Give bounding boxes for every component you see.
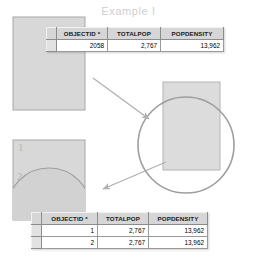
table-header-row: OBJECTID * TOTALPOP POPDENSITY <box>32 213 208 225</box>
input-feature-attribute-table[interactable]: OBJECTID * TOTALPOP POPDENSITY 2058 2,76… <box>46 27 224 52</box>
polygon-part-label-1: 1 <box>18 141 24 153</box>
table-row[interactable]: 2058 2,767 13,962 <box>47 40 224 52</box>
cell-popdensity[interactable]: 13,962 <box>161 40 224 52</box>
table-row[interactable]: 2 2,767 13,962 <box>32 237 208 249</box>
cell-objectid[interactable]: 2 <box>42 237 98 249</box>
arrow-overlay-to-output <box>103 162 166 189</box>
column-header-totalpop[interactable]: TOTALPOP <box>98 213 149 225</box>
cell-totalpop[interactable]: 2,767 <box>108 40 161 52</box>
cell-totalpop[interactable]: 2,767 <box>98 225 149 237</box>
arrow-input-to-overlay <box>93 78 149 119</box>
cell-objectid[interactable]: 2058 <box>57 40 108 52</box>
row-selector-cell[interactable] <box>47 40 57 52</box>
column-header-objectid[interactable]: OBJECTID * <box>57 28 108 40</box>
cell-popdensity[interactable]: 13,962 <box>149 225 208 237</box>
table-row[interactable]: 1 2,767 13,962 <box>32 225 208 237</box>
row-selector-cell[interactable] <box>32 237 42 249</box>
cell-objectid[interactable]: 1 <box>42 225 98 237</box>
row-selector-cell[interactable] <box>32 225 42 237</box>
cell-totalpop[interactable]: 2,767 <box>98 237 149 249</box>
diagram-canvas: Example I 1 2 <box>0 0 257 258</box>
output-feature-attribute-table[interactable]: OBJECTID * TOTALPOP POPDENSITY 1 2,767 1… <box>31 212 208 249</box>
polygon-part-label-2: 2 <box>17 170 23 182</box>
row-selector-header[interactable] <box>32 213 42 225</box>
column-header-popdensity[interactable]: POPDENSITY <box>161 28 224 40</box>
row-selector-header[interactable] <box>47 28 57 40</box>
cell-popdensity[interactable]: 13,962 <box>149 237 208 249</box>
column-header-popdensity[interactable]: POPDENSITY <box>149 213 208 225</box>
overlay-polygon <box>163 82 220 170</box>
table-header-row: OBJECTID * TOTALPOP POPDENSITY <box>47 28 224 40</box>
column-header-objectid[interactable]: OBJECTID * <box>42 213 98 225</box>
column-header-totalpop[interactable]: TOTALPOP <box>108 28 161 40</box>
